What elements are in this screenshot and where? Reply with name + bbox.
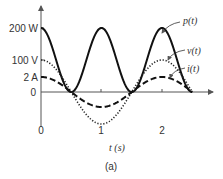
- y-tick-label-0: 0: [30, 87, 36, 98]
- x-tick-label-1: 1: [98, 125, 104, 136]
- power-voltage-current-chart: 200 W 100 V 2 A 0 0 1 2 t (s) (a) p(t) v…: [0, 0, 223, 179]
- i-label: i(t): [187, 63, 200, 75]
- x-tick-label-0: 0: [38, 125, 44, 136]
- y-tick-label-2: 2 A: [24, 72, 39, 83]
- p-curve: [41, 28, 192, 92]
- figure-caption: (a): [105, 161, 117, 172]
- x-tick-label-2: 2: [159, 125, 165, 136]
- y-tick-label-100: 100 V: [12, 55, 38, 66]
- p-label: p(t): [182, 15, 198, 27]
- x-axis-label: t (s): [109, 142, 126, 154]
- p-callout-arrow: [162, 22, 180, 33]
- y-tick-label-200: 200 W: [9, 23, 38, 34]
- v-label: v(t): [187, 45, 202, 57]
